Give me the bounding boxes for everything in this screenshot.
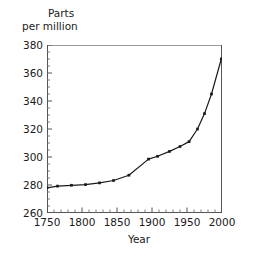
x-tick-label-1850: 1850 bbox=[104, 217, 131, 228]
x-axis-tick-labels: 175018001850190019502000 bbox=[0, 0, 254, 257]
x-tick-label-1800: 1800 bbox=[69, 217, 96, 228]
x-tick-label-2000: 2000 bbox=[209, 217, 236, 228]
x-tick-label-1750: 1750 bbox=[34, 217, 61, 228]
chart-figure: Parts per million 260280300320340360380 … bbox=[0, 0, 254, 257]
x-tick-label-1950: 1950 bbox=[174, 217, 201, 228]
x-axis-title: Year bbox=[0, 233, 254, 245]
x-axis-title-text: Year bbox=[128, 233, 150, 245]
x-tick-label-1900: 1900 bbox=[139, 217, 166, 228]
